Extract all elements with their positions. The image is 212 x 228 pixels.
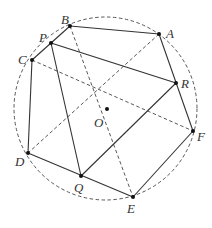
solid-lines bbox=[28, 26, 193, 197]
segment-CD bbox=[28, 60, 32, 153]
segment-CF bbox=[32, 60, 193, 131]
diagram-canvas: ABCDEFOPQR bbox=[0, 0, 212, 228]
point-E bbox=[131, 195, 135, 199]
label-P: P bbox=[38, 30, 47, 45]
segment-PQ bbox=[51, 43, 81, 176]
point-F bbox=[191, 129, 195, 133]
label-B: B bbox=[61, 12, 69, 27]
label-F: F bbox=[196, 129, 206, 144]
point-D bbox=[26, 151, 30, 155]
points bbox=[26, 24, 195, 199]
point-P bbox=[49, 41, 53, 45]
point-O bbox=[105, 107, 109, 111]
label-R: R bbox=[180, 76, 189, 91]
segment-BA bbox=[70, 26, 159, 34]
label-E: E bbox=[126, 201, 135, 216]
segment-PR bbox=[51, 43, 176, 83]
label-Q: Q bbox=[74, 180, 84, 195]
segment-AD bbox=[28, 34, 159, 153]
label-D: D bbox=[14, 154, 25, 169]
label-O: O bbox=[94, 115, 104, 130]
point-C bbox=[30, 58, 34, 62]
geometry-diagram: ABCDEFOPQR bbox=[0, 0, 212, 228]
point-R bbox=[174, 81, 178, 85]
point-A bbox=[157, 32, 161, 36]
segment-EF bbox=[133, 131, 193, 197]
point-Q bbox=[79, 174, 83, 178]
label-A: A bbox=[165, 26, 174, 41]
label-C: C bbox=[18, 52, 27, 67]
point-labels: ABCDEFOPQR bbox=[14, 12, 206, 216]
